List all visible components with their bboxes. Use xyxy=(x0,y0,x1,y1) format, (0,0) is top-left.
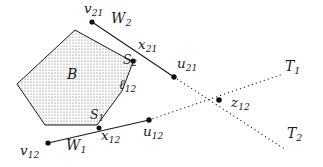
label-vertex-v12-subscript: 12 xyxy=(28,149,40,160)
label-segment-w1-subscript: 1 xyxy=(80,144,86,155)
label-point-u21-subscript: 21 xyxy=(186,62,198,73)
label-vertex-v21-subscript: 21 xyxy=(92,7,104,18)
label-ray-t1: T1 xyxy=(285,59,300,75)
label-vertex-v12: v12 xyxy=(20,144,39,159)
label-point-u12-subscript: 12 xyxy=(152,130,164,141)
label-region-b: B xyxy=(67,67,77,81)
label-segment-w2: W2 xyxy=(111,11,131,27)
label-side-s1: S1 xyxy=(90,109,104,123)
label-point-x12: x12 xyxy=(101,129,120,144)
diagram-svg xyxy=(0,0,323,167)
dotted-ray-u12-to-t1 xyxy=(149,74,283,120)
label-edge-l12: ℓ12 xyxy=(119,78,136,93)
label-point-x21: x21 xyxy=(138,38,157,53)
label-point-x12-subscript: 12 xyxy=(109,134,121,145)
point-v21-dot xyxy=(89,19,94,24)
label-side-s2-subscript: 2 xyxy=(132,58,137,68)
label-ray-t2: T2 xyxy=(287,126,302,142)
label-edge-l12-subscript: 12 xyxy=(125,83,137,94)
label-point-u12: u12 xyxy=(143,125,163,140)
label-segment-w2-subscript: 2 xyxy=(125,17,131,28)
label-point-x21-subscript: 21 xyxy=(146,43,158,54)
label-ray-t2-subscript: 2 xyxy=(296,132,302,143)
point-z12-dot xyxy=(216,97,222,103)
point-u21-dot xyxy=(171,74,176,79)
label-side-s1-subscript: 1 xyxy=(99,113,104,123)
label-segment-w1: W1 xyxy=(66,138,86,154)
label-ray-t1-subscript: 1 xyxy=(294,65,300,76)
dotted-ray-u21-to-t2 xyxy=(174,77,286,150)
label-point-z12-subscript: 12 xyxy=(238,101,250,112)
label-point-z12: z12 xyxy=(231,96,250,111)
figure-canvas: B v21 v12 x21 x12 u21 u12 z12 W1 W2 S1 S… xyxy=(0,0,323,167)
label-vertex-v21: v21 xyxy=(84,2,103,17)
label-point-u21: u21 xyxy=(177,57,197,72)
label-side-s2: S2 xyxy=(123,54,137,68)
point-v12-dot xyxy=(45,140,50,145)
point-u12-dot xyxy=(146,117,151,122)
